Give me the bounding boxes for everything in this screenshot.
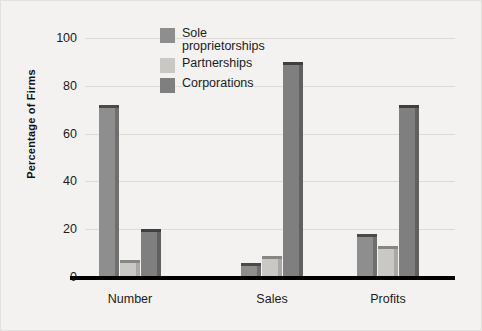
y-tick-label: 20 (63, 222, 77, 236)
bar-number-corporations (141, 229, 161, 277)
legend-item-partnerships: Partnerships (160, 57, 290, 73)
bar-front-face (378, 246, 394, 277)
bar-top-face (262, 256, 282, 259)
x-tick-label: Number (108, 292, 152, 306)
bar-side-face (115, 105, 119, 277)
legend-swatch-icon-corporations (160, 78, 175, 93)
bar-front-face (99, 105, 115, 277)
bar-top-face (141, 229, 161, 232)
legend-item-corporations: Corporations (160, 77, 290, 93)
legend-label-sole-proprietorships: Sole proprietorships (182, 27, 277, 53)
y-tick-label: 80 (63, 79, 77, 93)
bar-front-face (141, 229, 157, 277)
y-tick-label: 40 (63, 174, 77, 188)
legend-item-sole-proprietorships: Sole proprietorships (160, 27, 290, 53)
bar-chart-figure: Percentage of Firms 020406080100 NumberS… (0, 0, 482, 331)
x-axis-line (70, 276, 455, 280)
bar-side-face (415, 105, 419, 277)
bar-side-face (373, 234, 377, 277)
bar-top-face (399, 105, 419, 108)
bar-side-face (394, 246, 398, 277)
bar-number-sole-proprietorships (99, 105, 119, 277)
bar-profits-corporations (399, 105, 419, 277)
bar-sales-sole-proprietorships (241, 263, 261, 277)
bar-front-face (262, 256, 278, 278)
x-tick-label: Profits (370, 292, 405, 306)
y-tick-label: 100 (56, 31, 77, 45)
legend-label-corporations: Corporations (182, 77, 254, 90)
bar-side-face (157, 229, 161, 277)
bar-top-face (357, 234, 377, 237)
bar-profits-partnerships (378, 246, 398, 277)
bar-profits-sole-proprietorships (357, 234, 377, 277)
legend: Sole proprietorships Partnerships Corpor… (160, 27, 290, 97)
bar-group-number (99, 38, 161, 277)
bar-front-face (399, 105, 415, 277)
legend-swatch-icon-sole-proprietorships (160, 28, 175, 43)
bar-sales-partnerships (262, 256, 282, 278)
bar-group-profits (357, 38, 419, 277)
bar-side-face (299, 62, 303, 277)
bar-number-partnerships (120, 260, 140, 277)
bar-top-face (378, 246, 398, 249)
bar-top-face (120, 260, 140, 263)
legend-swatch-icon-partnerships (160, 58, 175, 73)
bar-top-face (241, 263, 261, 266)
bar-top-face (99, 105, 119, 108)
legend-label-partnerships: Partnerships (182, 57, 252, 70)
y-tick-label: 60 (63, 127, 77, 141)
x-tick-label: Sales (256, 292, 287, 306)
bar-side-face (278, 256, 282, 278)
bar-front-face (357, 234, 373, 277)
y-axis-tick-labels: 020406080100 (0, 0, 85, 331)
